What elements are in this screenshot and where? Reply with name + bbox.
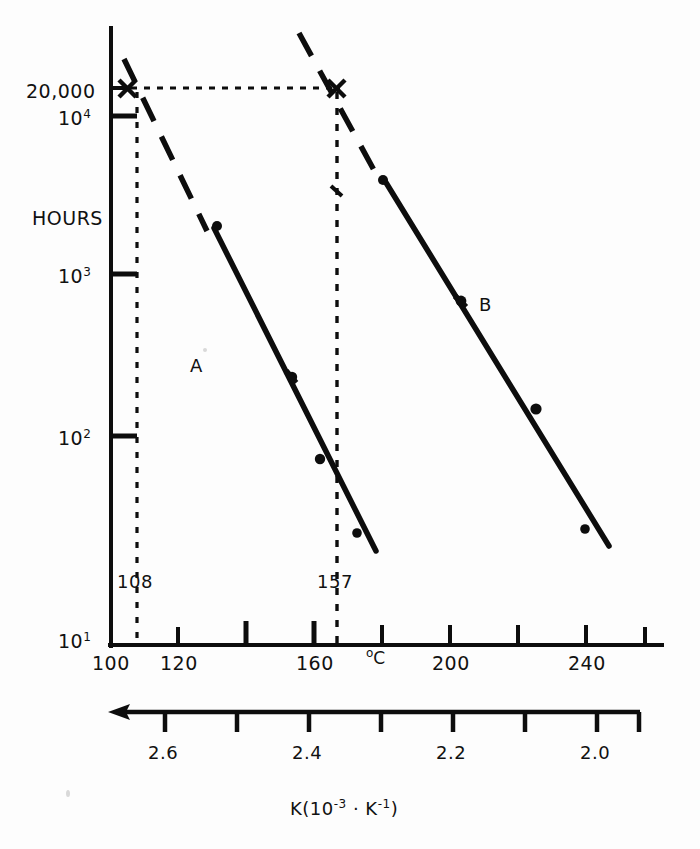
y-axis-ticks — [111, 88, 137, 436]
caption-exponent-2: -1 — [378, 797, 391, 811]
series-b-label: B — [479, 294, 491, 315]
x-tick-label-160: 160 — [296, 652, 334, 674]
series-b-point — [580, 524, 590, 534]
y-tick-label-10e1-exponent: 1 — [83, 630, 91, 644]
caption-part-1: K(10 — [290, 798, 334, 819]
series-a-fit-line — [214, 228, 376, 551]
x-axis-ticks — [178, 621, 645, 645]
x-axis-unit-label: oC — [366, 646, 385, 668]
y-tick-label-10e1: 101 — [58, 630, 91, 652]
caption-exponent-1: -3 — [334, 797, 347, 811]
x-tick-label-240: 240 — [568, 652, 606, 674]
k-tick-label-2.0: 2.0 — [580, 742, 610, 763]
k-axis — [108, 704, 640, 732]
y-tick-label-20000: 20,000 — [26, 80, 95, 102]
axis-lines — [110, 28, 662, 646]
series-a-point — [212, 221, 222, 231]
annotation-157: 157 — [317, 571, 353, 592]
figure-canvas: 20,000 104 103 102 101 HOURS 108 157 A B… — [0, 0, 700, 849]
series-a-point — [352, 528, 362, 538]
x-tick-label-120: 120 — [160, 652, 198, 674]
k-axis-caption: K(10-3 · K-1) — [290, 797, 398, 819]
series-b-point — [378, 175, 388, 185]
y-tick-label-10e2-exponent: 2 — [83, 427, 91, 441]
chart-svg — [0, 0, 700, 849]
annotation-108: 108 — [117, 571, 153, 592]
y-tick-label-10e4: 104 — [58, 107, 91, 129]
series-b-fit-line — [385, 181, 609, 546]
scan-speck — [203, 348, 207, 352]
curve-tick-marks — [286, 186, 466, 383]
intersection-markers — [119, 80, 345, 97]
k-tick-label-2.2: 2.2 — [436, 742, 466, 763]
y-tick-label-10e4-mantissa: 10 — [58, 107, 83, 129]
caption-part-3: ) — [391, 798, 399, 819]
x-tick-label-100: 100 — [92, 652, 130, 674]
y-tick-label-10e4-exponent: 4 — [83, 107, 91, 121]
series-a-extrapolation — [124, 59, 207, 231]
x-tick-label-200: 200 — [432, 652, 470, 674]
k-tick-label-2.6: 2.6 — [148, 742, 178, 763]
y-tick-label-10e2: 102 — [58, 427, 91, 449]
y-tick-label-10e1-mantissa: 10 — [58, 630, 83, 652]
y-axis-title: HOURS — [32, 207, 103, 229]
series-a-label: A — [190, 355, 202, 376]
series-a-point — [315, 454, 325, 464]
k-tick-label-2.4: 2.4 — [292, 742, 322, 763]
series-b — [299, 33, 609, 546]
series-b-extrapolation — [299, 33, 381, 183]
y-tick-label-10e2-mantissa: 10 — [58, 427, 83, 449]
celsius-letter: C — [373, 648, 385, 668]
y-tick-label-10e3-mantissa: 10 — [58, 265, 83, 287]
series-b-point — [530, 403, 541, 414]
scan-speck — [66, 790, 70, 797]
caption-part-2: · K — [347, 798, 378, 819]
y-tick-label-10e3-exponent: 3 — [83, 265, 91, 279]
y-tick-label-10e3: 103 — [58, 265, 91, 287]
